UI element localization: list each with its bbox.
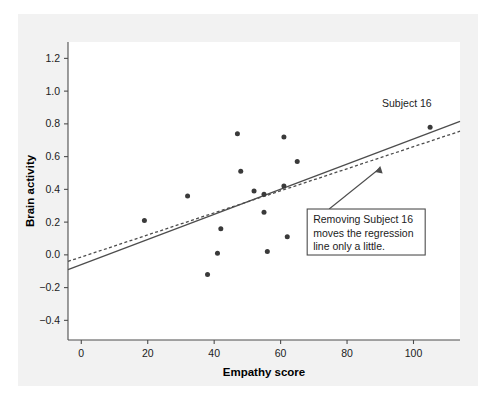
data-point <box>281 184 286 189</box>
y-tick-label: −0.2 <box>39 281 60 293</box>
x-tick-label: 100 <box>405 347 423 359</box>
data-point <box>252 189 257 194</box>
x-axis-ticks: 020406080100 <box>78 340 422 359</box>
y-axis-ticks: −0.4−0.20.00.20.40.60.81.01.2 <box>39 52 68 326</box>
x-tick-label: 60 <box>275 347 287 359</box>
data-point <box>205 272 210 277</box>
y-tick-label: 0.6 <box>45 150 60 162</box>
data-point <box>265 249 270 254</box>
data-point <box>262 192 267 197</box>
callout-line: line only a little. <box>313 240 385 252</box>
subject-16-label: Subject 16 <box>382 97 432 109</box>
data-point <box>281 134 286 139</box>
y-tick-label: 0.8 <box>45 117 60 129</box>
data-point <box>238 169 243 174</box>
y-tick-label: 0.4 <box>45 183 60 195</box>
callout-line: moves the regression <box>313 227 414 239</box>
data-point <box>142 218 147 223</box>
data-point <box>285 234 290 239</box>
x-tick-label: 20 <box>142 347 154 359</box>
y-axis-title: Brain activity <box>24 154 36 227</box>
data-point <box>185 193 190 198</box>
data-point <box>262 210 267 215</box>
data-point <box>235 131 240 136</box>
scatter-plot: −0.4−0.20.00.20.40.60.81.01.2 0204060801… <box>18 14 478 386</box>
data-point <box>215 251 220 256</box>
data-point <box>295 159 300 164</box>
callout-line: Removing Subject 16 <box>313 213 413 225</box>
x-axis-title: Empathy score <box>223 366 305 378</box>
y-tick-label: −0.4 <box>39 314 60 326</box>
x-tick-label: 0 <box>78 347 84 359</box>
data-point <box>428 125 433 130</box>
data-point <box>218 226 223 231</box>
y-tick-label: 0.0 <box>45 248 60 260</box>
x-tick-label: 80 <box>341 347 353 359</box>
y-tick-label: 1.2 <box>45 52 60 64</box>
figure-container: −0.4−0.20.00.20.40.60.81.01.2 0204060801… <box>18 14 478 386</box>
plot-panel <box>68 42 460 340</box>
y-tick-label: 1.0 <box>45 85 60 97</box>
x-tick-label: 40 <box>208 347 220 359</box>
y-tick-label: 0.2 <box>45 216 60 228</box>
